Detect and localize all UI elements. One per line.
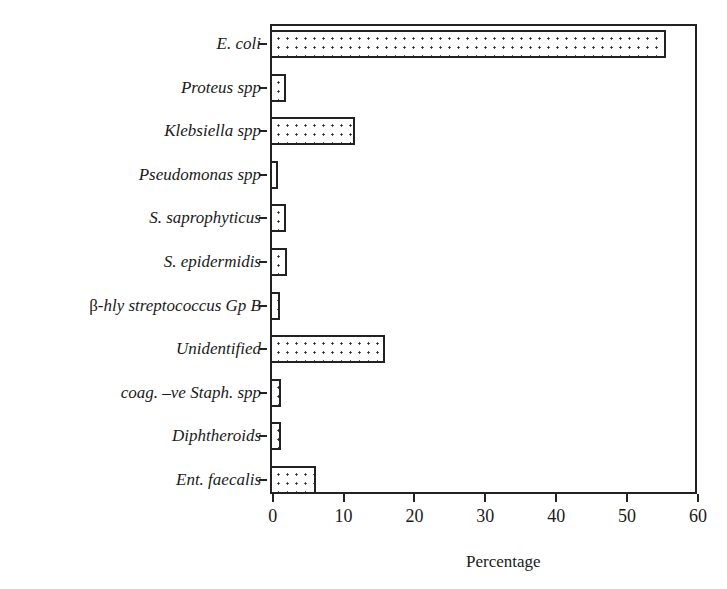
bar — [270, 248, 287, 276]
bar — [270, 379, 281, 407]
x-tick-label: 40 — [536, 506, 576, 527]
y-category-label: Pseudomonas spp — [139, 165, 261, 185]
x-tick-label: 30 — [465, 506, 505, 527]
y-category-label: S. epidermidis — [164, 252, 261, 272]
x-tick-label: 0 — [253, 506, 293, 527]
x-tick-label: 60 — [678, 506, 718, 527]
y-category-label: Diphtheroids — [172, 426, 261, 446]
x-tick-mark — [484, 494, 486, 502]
x-tick-label: 50 — [607, 506, 647, 527]
y-category-label: Unidentified — [176, 339, 261, 359]
bar — [270, 161, 278, 189]
bar — [270, 117, 355, 145]
x-tick-mark — [413, 494, 415, 502]
x-tick-mark — [343, 494, 345, 502]
plot-frame — [270, 24, 697, 494]
bar — [270, 30, 666, 58]
y-category-label: Proteus spp — [181, 78, 261, 98]
x-tick-label: 20 — [394, 506, 434, 527]
y-category-label: coag. –ve Staph. spp — [121, 383, 261, 403]
x-tick-mark — [555, 494, 557, 502]
bar — [270, 204, 286, 232]
bar — [270, 292, 280, 320]
x-tick-label: 10 — [324, 506, 364, 527]
y-category-label: Klebsiella spp — [164, 121, 261, 141]
y-category-label: S. saprophyticus — [149, 208, 261, 228]
bar — [270, 422, 281, 450]
y-category-label: Ent. faecalis — [176, 470, 261, 490]
x-tick-mark — [626, 494, 628, 502]
y-category-label: β-hly streptococcus Gp B — [89, 296, 261, 316]
y-category-label: E. coli — [217, 34, 261, 54]
horizontal-bar-chart: E. coliProteus sppKlebsiella sppPseudomo… — [0, 0, 727, 589]
x-tick-mark — [697, 494, 699, 502]
bar — [270, 335, 385, 363]
bar — [270, 74, 286, 102]
x-tick-mark — [272, 494, 274, 502]
bar — [270, 466, 316, 494]
x-axis-title: Percentage — [466, 552, 541, 572]
